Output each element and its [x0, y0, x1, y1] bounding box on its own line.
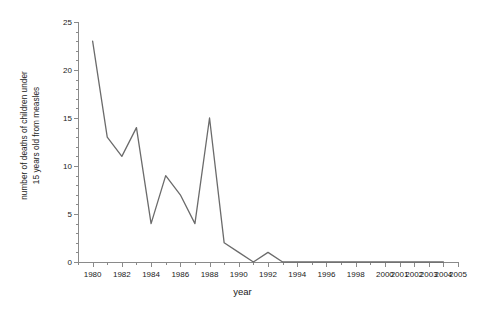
x-tick-1988 [210, 262, 211, 267]
x-tick-1983 [136, 262, 137, 265]
x-tick-1982 [122, 262, 123, 267]
measles-deaths-line-chart: number of deaths of children under 15 ye… [0, 0, 485, 316]
y-axis-title: number of deaths of children under 15 ye… [0, 0, 60, 270]
x-tick-label-1982: 1982 [113, 270, 131, 279]
x-tick-1998 [356, 262, 357, 267]
plot-area: 0510152025 19801982198419861988199019921… [78, 22, 458, 262]
x-tick-label-1984: 1984 [142, 270, 160, 279]
x-tick-1984 [151, 262, 152, 267]
x-tick-2000 [385, 262, 386, 267]
x-tick-1981 [107, 262, 108, 265]
x-tick-label-1986: 1986 [171, 270, 189, 279]
x-tick-1985 [166, 262, 167, 265]
x-tick-1996 [326, 262, 327, 267]
y-axis-title-line-1: number of deaths of children under [19, 71, 31, 200]
x-tick-2004 [443, 262, 444, 267]
x-tick-2001 [400, 262, 401, 267]
x-tick-1980 [93, 262, 94, 267]
x-tick-label-1996: 1996 [318, 270, 336, 279]
y-tick-label-25: 25 [63, 18, 72, 27]
x-tick-2002 [414, 262, 415, 267]
x-tick-2005 [458, 262, 459, 267]
y-tick-label-20: 20 [63, 66, 72, 75]
x-tick-1992 [268, 262, 269, 267]
data-series-measles-deaths [78, 22, 458, 262]
x-tick-label-1998: 1998 [347, 270, 365, 279]
x-tick-label-1988: 1988 [201, 270, 219, 279]
x-tick-1989 [224, 262, 225, 265]
y-tick-label-10: 10 [63, 162, 72, 171]
y-tick-label-15: 15 [63, 114, 72, 123]
x-tick-label-1990: 1990 [230, 270, 248, 279]
x-tick-1987 [195, 262, 196, 265]
x-tick-1990 [239, 262, 240, 267]
x-tick-1979 [78, 262, 79, 265]
x-tick-label-1994: 1994 [288, 270, 306, 279]
x-tick-1994 [297, 262, 298, 267]
x-tick-label-2005: 2005 [449, 270, 467, 279]
y-tick-label-5: 5 [68, 210, 72, 219]
x-axis-title: year [0, 286, 485, 297]
x-tick-label-1980: 1980 [84, 270, 102, 279]
y-axis-title-line-2: 15 years old from measles [30, 71, 42, 200]
x-tick-1986 [180, 262, 181, 267]
y-tick-label-0: 0 [68, 258, 72, 267]
x-tick-label-1992: 1992 [259, 270, 277, 279]
x-tick-2003 [429, 262, 430, 267]
